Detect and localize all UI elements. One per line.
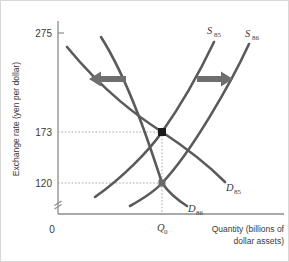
chart-canvas: 275 173 120 0 Q 0 Exchange rate (yen per… <box>1 1 289 262</box>
x-tick-label-q0: Q 0 <box>157 222 168 236</box>
curve-label-S85: S 85 <box>207 25 222 39</box>
curve-label-D85-main: D <box>225 182 234 193</box>
x-axis-title-line2: dollar assets) <box>233 236 284 246</box>
curve-label-D85-sub: 85 <box>234 188 242 196</box>
curve-label-S86: S 86 <box>245 28 260 42</box>
y-tick-labels-group: 275 173 120 <box>35 28 52 189</box>
x-axis-title: Quantity (billions of dollar assets) <box>212 224 285 246</box>
curve-S85 <box>95 42 214 197</box>
curve-label-D86-main: D <box>187 203 196 214</box>
x-tick-label-q0-sub: 0 <box>164 228 168 236</box>
curve-label-D86-sub: 86 <box>196 209 204 217</box>
equilibrium-1985-marker <box>158 128 166 136</box>
curve-label-S85-sub: 85 <box>214 31 222 39</box>
shift-arrows-group <box>89 72 233 87</box>
guide-lines-group <box>58 132 162 214</box>
curve-label-S86-sub: 86 <box>252 34 260 42</box>
origin-label: 0 <box>49 224 55 235</box>
equilibrium-1986-marker <box>159 180 166 187</box>
x-axis-title-line1: Quantity (billions of <box>212 224 285 234</box>
curve-label-D86: D 86 <box>187 203 204 217</box>
y-axis-title: Exchange rate (yen per dollar) <box>11 62 21 177</box>
y-tick-label-275: 275 <box>35 28 52 39</box>
curves-group <box>67 37 249 206</box>
curve-label-S85-main: S <box>207 25 213 36</box>
curve-label-D85: D 85 <box>225 182 242 196</box>
curve-D86 <box>101 37 187 206</box>
curve-label-S86-main: S <box>245 28 251 39</box>
y-tick-label-120: 120 <box>35 178 52 189</box>
axes-group <box>55 21 285 214</box>
y-tick-label-173: 173 <box>35 127 52 138</box>
exchange-rate-supply-demand-chart: 275 173 120 0 Q 0 Exchange rate (yen per… <box>0 0 289 262</box>
